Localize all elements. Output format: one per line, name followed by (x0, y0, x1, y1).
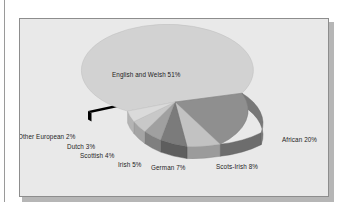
pie-label-irish: Irish 5% (118, 161, 142, 169)
pie-top-faces (81, 24, 253, 146)
pie-chart-plot-area: English and Welsh 51% African 20% Scots-… (20, 19, 328, 196)
pie-label-scots-irish: Scots-Irish 8% (216, 163, 258, 171)
pie-label-german: German 7% (151, 164, 186, 172)
pie-side-other-european (88, 111, 92, 121)
pie-label-other-european: Other European 2% (19, 133, 75, 141)
pie-label-scottish: Scottish 4% (80, 152, 114, 160)
chart-panel: English and Welsh 51% African 20% Scots-… (19, 18, 329, 197)
pie-label-dutch: Dutch 3% (67, 143, 95, 151)
pie-label-african: African 20% (282, 136, 317, 144)
page-vertical-rule (4, 0, 5, 202)
pie-label-english-and-welsh: English and Welsh 51% (112, 71, 181, 79)
